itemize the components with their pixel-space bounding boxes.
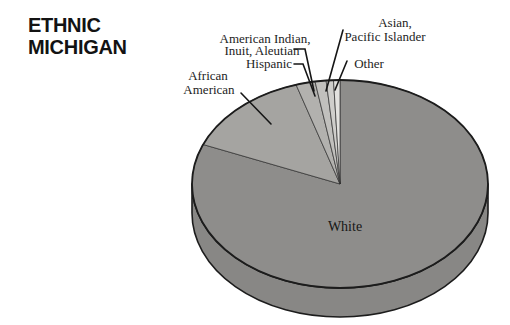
- label-asian-line2: Pacific Islander: [344, 29, 426, 44]
- label-hispanic: Hispanic: [246, 56, 292, 71]
- label-african-american-line2: American: [183, 82, 235, 97]
- pie-slices: [192, 80, 488, 288]
- ethnic-michigan-pie-chart: African American American Indian, Inuit,…: [0, 0, 510, 325]
- chart-canvas: ETHNIC MICHIGAN African American America…: [0, 0, 510, 325]
- label-other: Other: [354, 56, 384, 71]
- label-white: White: [328, 219, 362, 234]
- label-african-american-line1: African: [188, 68, 228, 83]
- label-asian-line1: Asian,: [378, 15, 412, 30]
